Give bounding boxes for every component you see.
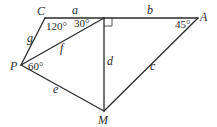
angle-label-c: 120° — [46, 20, 67, 32]
geometry-diagram: C A P M a b c d e f g 120° 30° 45° 60° — [0, 0, 217, 127]
edge-label-c: c — [150, 59, 156, 73]
vertex-label-a: A — [199, 10, 208, 24]
angle-label-30: 30° — [74, 17, 89, 29]
vertex-label-m: M — [97, 113, 109, 127]
edge-label-d: d — [107, 54, 114, 68]
edge-label-g: g — [27, 31, 33, 45]
vertex-label-c: C — [37, 4, 46, 18]
edge-label-e: e — [53, 82, 59, 96]
edge-label-a: a — [72, 3, 78, 17]
vertex-label-p: P — [9, 59, 18, 73]
angle-label-a: 45° — [175, 18, 190, 30]
edge-label-f: f — [60, 41, 65, 55]
angle-label-p: 60° — [28, 60, 43, 72]
right-angle-marker — [104, 18, 112, 26]
edge-label-b: b — [147, 3, 153, 17]
